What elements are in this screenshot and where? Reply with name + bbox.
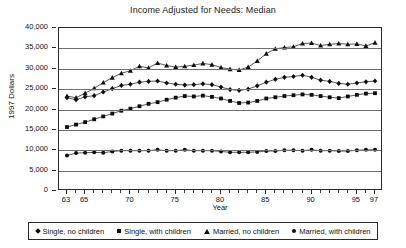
data-point-triangle <box>101 80 106 85</box>
data-point-triangle <box>83 91 88 96</box>
x-axis-tick <box>111 190 112 193</box>
data-point-triangle <box>155 60 160 65</box>
x-axis-tick <box>220 190 221 194</box>
y-axis-tick-label: 0 <box>44 186 48 194</box>
gridline <box>59 48 381 49</box>
data-point-square <box>174 96 178 100</box>
data-point-diamond <box>146 79 151 84</box>
legend-label: Single, no children <box>43 227 105 236</box>
data-point-diamond <box>128 82 133 87</box>
x-axis-tick <box>247 190 248 193</box>
data-point-square <box>355 93 359 97</box>
y-axis-tick <box>52 170 56 171</box>
data-point-diamond <box>137 80 142 85</box>
x-axis-tick <box>292 190 293 193</box>
x-axis-tick <box>102 190 103 193</box>
gridline <box>59 171 381 172</box>
gridline <box>59 130 381 131</box>
data-point-square <box>264 97 268 101</box>
data-point-square <box>110 112 114 116</box>
data-point-triangle <box>255 58 260 63</box>
data-point-diamond <box>373 78 378 83</box>
y-axis-tick-label: 15,000 <box>25 125 48 133</box>
data-point-diamond <box>318 78 323 83</box>
data-point-triangle <box>373 40 378 45</box>
data-point-square <box>283 94 287 98</box>
x-axis-tick <box>229 190 230 193</box>
data-point-square <box>228 99 232 103</box>
data-point-square <box>337 96 341 100</box>
data-point-triangle <box>354 41 359 46</box>
data-point-diamond <box>309 75 314 80</box>
y-axis-tick <box>52 68 56 69</box>
x-axis-tick <box>202 190 203 193</box>
data-point-square <box>65 125 69 129</box>
data-point-diamond <box>291 74 296 79</box>
legend-label: Single, with children <box>124 227 191 236</box>
x-axis-tick <box>184 190 185 193</box>
x-axis-tick <box>148 190 149 193</box>
y-axis-tick-label: 20,000 <box>25 105 48 113</box>
legend-item[interactable]: Married, no children <box>204 227 279 236</box>
y-axis-tick-label: 5,000 <box>29 166 48 174</box>
y-axis-tick <box>52 27 56 28</box>
x-axis-tick <box>138 190 139 193</box>
data-point-triangle <box>110 75 115 80</box>
data-point-circle <box>74 151 78 155</box>
data-point-square <box>346 95 350 99</box>
data-point-square <box>319 94 323 98</box>
data-point-square <box>292 93 296 97</box>
y-axis-tick <box>52 129 56 130</box>
square-marker-icon <box>117 229 121 233</box>
gridline <box>59 110 381 111</box>
y-axis-title: 1997 Dollars <box>7 62 16 132</box>
x-axis-tick <box>120 190 121 193</box>
triangle-marker-icon <box>204 229 210 234</box>
data-point-square <box>192 95 196 99</box>
y-axis-tick-label: 25,000 <box>25 84 48 92</box>
data-point-diamond <box>273 77 278 82</box>
x-axis-tick <box>347 190 348 193</box>
circle-marker-icon <box>292 229 296 233</box>
x-axis-tick <box>211 190 212 193</box>
x-axis-tick <box>338 190 339 193</box>
x-axis-tick <box>374 190 375 194</box>
data-point-square <box>147 102 151 106</box>
legend-item[interactable]: Married, with children <box>292 227 370 236</box>
x-axis-tick <box>157 190 158 193</box>
data-point-square <box>83 120 87 124</box>
x-axis-tick <box>320 190 321 193</box>
data-point-triangle <box>65 93 70 98</box>
x-axis-tick <box>75 190 76 193</box>
y-axis-tick <box>52 109 56 110</box>
data-point-square <box>364 92 368 96</box>
data-point-diamond <box>364 79 369 84</box>
x-axis-tick <box>193 190 194 193</box>
y-axis-tick <box>52 190 56 191</box>
data-point-diamond <box>164 80 169 85</box>
data-point-diamond <box>182 82 187 87</box>
data-point-square <box>219 97 223 101</box>
data-point-triangle <box>264 51 269 56</box>
x-axis-tick <box>84 190 85 194</box>
y-axis-tick-label: 35,000 <box>25 43 48 51</box>
x-axis-tick <box>356 190 357 194</box>
x-axis-tick <box>365 190 366 193</box>
data-point-diamond <box>192 82 197 87</box>
x-axis-tick <box>93 190 94 193</box>
data-point-diamond <box>101 89 106 94</box>
x-axis-tick <box>302 190 303 193</box>
data-point-triangle <box>137 64 142 69</box>
x-axis-tick <box>329 190 330 193</box>
x-axis-tick <box>129 190 130 194</box>
x-axis-tick <box>66 190 67 194</box>
legend-item[interactable]: Single, no children <box>36 227 105 236</box>
data-point-square <box>138 104 142 108</box>
x-axis-tick <box>238 190 239 193</box>
data-point-square <box>301 93 305 97</box>
y-axis-tick-label: 40,000 <box>25 23 48 31</box>
data-point-diamond <box>92 93 97 98</box>
data-point-diamond <box>300 73 305 78</box>
legend-label: Married, no children <box>213 227 279 236</box>
legend-item[interactable]: Single, with children <box>117 227 191 236</box>
